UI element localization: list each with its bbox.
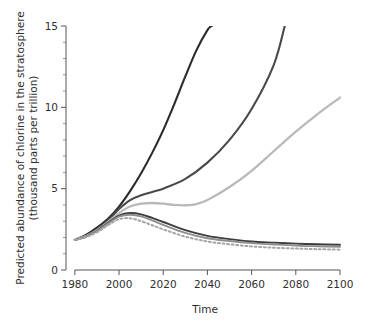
y-tick-label: 10 — [45, 101, 58, 113]
y-axis-title-line2: (thousand parts per trillion) — [27, 76, 39, 221]
y-axis: 051015 — [45, 20, 66, 276]
y-axis-title-line1: Predicted abundance of chlorine in the s… — [14, 11, 26, 284]
series-lines — [75, 26, 340, 250]
line-chart: Predicted abundance of chlorine in the s… — [0, 0, 373, 331]
x-axis-title: Time — [191, 303, 218, 315]
series-line — [75, 215, 340, 247]
y-tick-label: 15 — [45, 20, 58, 32]
x-tick-label: 2100 — [327, 278, 354, 290]
x-axis: 1980200020202040206020802100 — [61, 270, 353, 290]
series-line — [75, 213, 340, 245]
series-line — [75, 26, 212, 240]
x-tick-label: 2040 — [194, 278, 221, 290]
chart-figure: Predicted abundance of chlorine in the s… — [0, 0, 373, 331]
series-line — [75, 26, 285, 240]
x-tick-label: 2080 — [282, 278, 309, 290]
x-tick-label: 1980 — [61, 278, 88, 290]
y-tick-label: 0 — [51, 264, 58, 276]
y-tick-label: 5 — [51, 182, 58, 194]
x-tick-label: 2020 — [150, 278, 177, 290]
x-tick-label: 2060 — [238, 278, 265, 290]
x-tick-label: 2000 — [106, 278, 133, 290]
